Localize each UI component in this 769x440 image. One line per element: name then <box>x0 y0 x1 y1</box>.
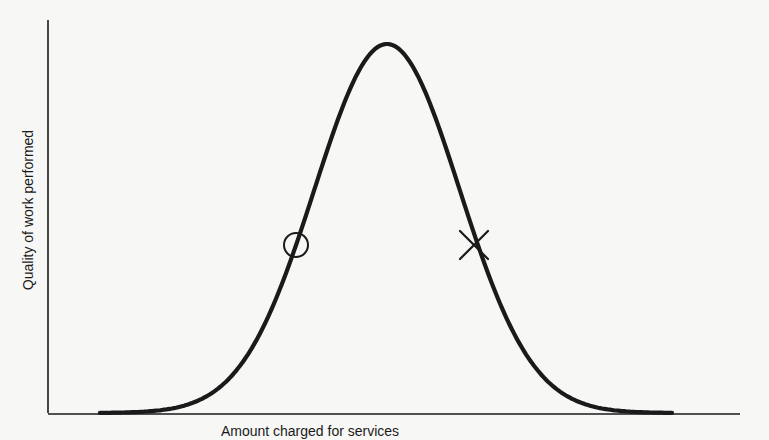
bell-curve-chart: Amount charged for services Quality of w… <box>0 0 769 440</box>
bell-curve-line <box>100 44 672 413</box>
y-axis-label: Quality of work performed <box>20 130 36 290</box>
x-axis-label: Amount charged for services <box>221 423 399 439</box>
